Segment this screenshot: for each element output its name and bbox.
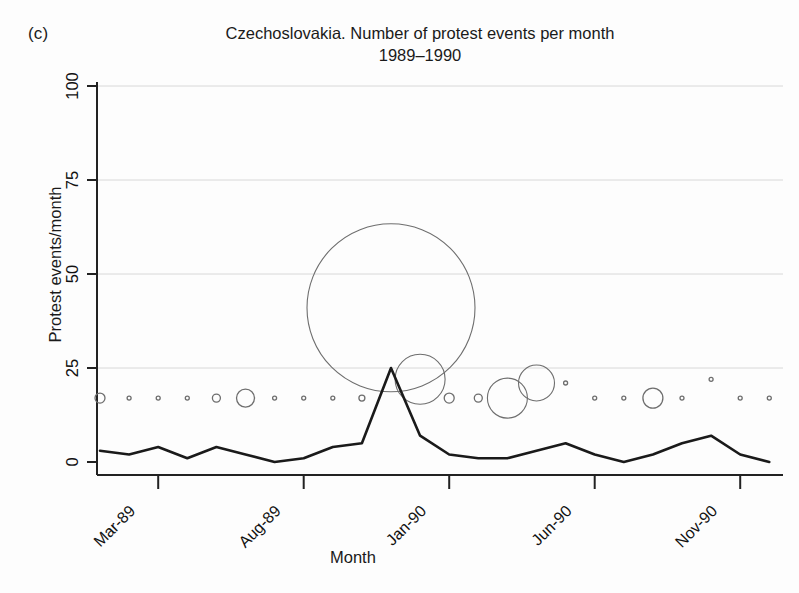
x-tick-label-1: Aug-89 <box>235 502 284 551</box>
x-tick-label-2: Jan-90 <box>383 502 430 549</box>
event-bubble <box>307 224 475 392</box>
event-bubble <box>593 396 597 400</box>
event-bubble <box>680 396 684 400</box>
chart-figure: (c) Czechoslovakia. Number of protest ev… <box>0 0 799 593</box>
event-bubble <box>359 395 365 401</box>
bubble-group <box>95 224 771 418</box>
event-bubble <box>474 394 482 402</box>
event-bubble <box>519 365 555 401</box>
gridlines <box>97 86 783 368</box>
event-bubble <box>185 396 189 400</box>
event-bubble <box>622 396 626 400</box>
event-bubble <box>444 393 454 403</box>
y-tick-label-25: 25 <box>63 359 81 377</box>
event-bubble <box>738 396 742 400</box>
x-tick-label-0: Mar-89 <box>90 502 138 550</box>
event-bubble <box>767 396 771 400</box>
event-bubble <box>273 396 277 400</box>
protest-events-line <box>100 368 769 462</box>
event-bubble <box>212 394 220 402</box>
event-bubble <box>643 388 663 408</box>
y-tick-label-75: 75 <box>63 171 81 189</box>
y-tick-group: 0255075100 <box>63 72 97 466</box>
event-bubble <box>302 396 306 400</box>
event-bubble <box>127 396 131 400</box>
event-bubble <box>709 377 713 381</box>
event-bubble <box>331 396 335 400</box>
event-bubble <box>237 389 255 407</box>
x-tick-label-3: Jun-90 <box>528 502 575 549</box>
x-tick-group: Mar-89Aug-89Jan-90Jun-90Nov-90 <box>90 475 740 551</box>
axes <box>97 82 783 475</box>
y-tick-label-0: 0 <box>63 457 81 466</box>
plot-area: 0255075100 Mar-89Aug-89Jan-90Jun-90Nov-9… <box>0 0 799 593</box>
y-tick-label-50: 50 <box>63 265 81 283</box>
x-tick-label-4: Nov-90 <box>672 502 721 551</box>
event-bubble <box>487 378 527 418</box>
event-bubble <box>564 381 568 385</box>
y-tick-label-100: 100 <box>63 72 81 100</box>
event-bubble <box>156 396 160 400</box>
